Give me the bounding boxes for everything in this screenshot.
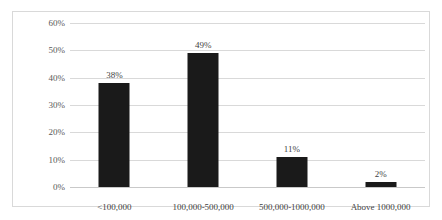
bar[interactable] [99, 83, 130, 187]
gridline-0: 0% [70, 187, 425, 188]
bar[interactable] [365, 182, 396, 187]
bar-value-label: 11% [284, 145, 300, 154]
x-axis-category-label: 100,000-500,000 [172, 203, 234, 212]
bar-value-label: 2% [375, 170, 387, 179]
bar-value-label: 49% [195, 41, 212, 50]
y-axis-tick-label: 0% [53, 183, 65, 192]
x-axis-category-label: Above 1000,000 [351, 203, 411, 212]
chart-frame: 0%10%20%30%40%50%60%38%49%11%2% <100,000… [12, 11, 430, 207]
bar[interactable] [188, 53, 219, 187]
chart-screenshot: 0%10%20%30%40%50%60%38%49%11%2% <100,000… [0, 0, 442, 220]
x-axis: <100,000100,000-500,000500,000-1000,000A… [70, 198, 425, 218]
bar-group: 2% [336, 23, 425, 187]
y-axis-tick-label: 40% [49, 73, 66, 82]
bar-group: 38% [70, 23, 159, 187]
y-axis-tick-label: 20% [49, 128, 66, 137]
bar-group: 49% [159, 23, 248, 187]
bar[interactable] [276, 157, 307, 187]
bar-group: 11% [248, 23, 337, 187]
x-axis-category-label: <100,000 [97, 203, 131, 212]
y-axis-tick-label: 50% [49, 46, 66, 55]
x-axis-category-label: 500,000-1000,000 [259, 203, 325, 212]
bar-value-label: 38% [106, 71, 123, 80]
y-axis-tick-label: 60% [49, 19, 66, 28]
y-axis-tick-label: 10% [49, 155, 66, 164]
y-axis-tick-label: 30% [49, 101, 66, 110]
plot-area: 0%10%20%30%40%50%60%38%49%11%2% [70, 23, 425, 187]
